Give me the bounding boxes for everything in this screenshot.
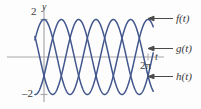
y-tick-label-bottom: –2 <box>22 88 33 99</box>
legend-label-g: g(t) <box>176 43 192 54</box>
y-axis-label: y <box>42 2 46 12</box>
x-tick-label-twopi: 2π <box>140 60 151 71</box>
left-arrow-icon-g <box>148 46 173 51</box>
t-axis-label: t <box>155 52 158 62</box>
trig-function-figure: y 2 –2 t 2π f(t) g(t) h(t) <box>0 0 201 109</box>
legend-arrow-group <box>148 16 173 79</box>
y-tick-label-top: 2 <box>31 6 37 17</box>
legend-label-h: h(t) <box>176 71 192 82</box>
left-arrow-icon-h <box>148 74 173 79</box>
left-arrow-icon-f <box>148 16 173 21</box>
legend-label-f: f(t) <box>176 13 189 24</box>
